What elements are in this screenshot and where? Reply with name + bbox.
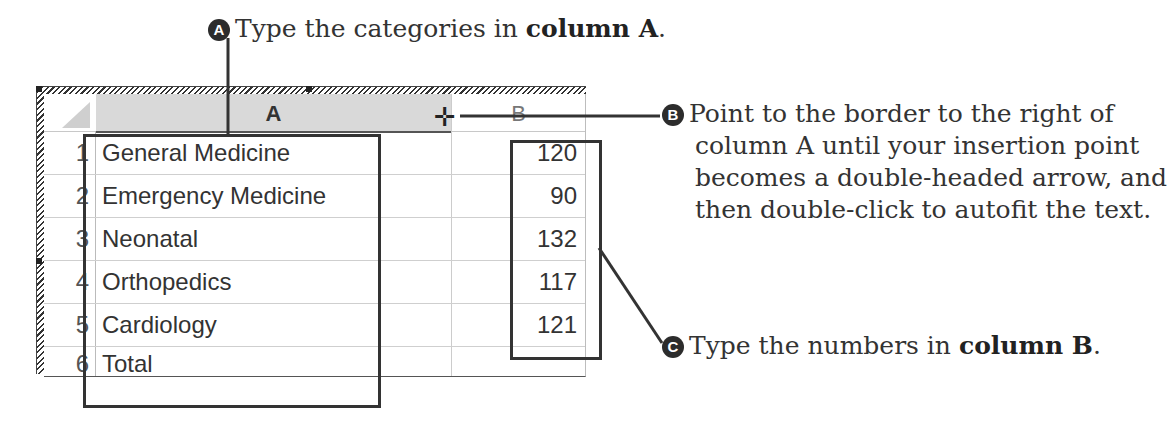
handle-top-left [36,86,42,92]
badge-c: C [662,336,684,358]
callout-a-bold: column A [526,14,658,43]
callout-b-text-1: Point to the border to the right of [689,99,1114,128]
callout-b-line-4: then double-click to autofit the text. [662,194,1167,226]
column-header-b[interactable]: B [452,94,585,131]
callout-b-line-3: becomes a double-headed arrow, and [662,162,1167,194]
callout-b-line-1: BPoint to the border to the right of [662,98,1167,130]
column-header-a[interactable]: A [96,94,451,133]
callout-b: BPoint to the border to the right of col… [662,98,1167,226]
highlight-box-column-b [510,140,602,360]
callout-a-text: Type the categories in [235,14,526,43]
callout-c: CType the numbers in column B. [662,330,1101,362]
badge-b: B [662,104,684,126]
callout-b-line-2: column A until your insertion point [662,130,1167,162]
callout-a-suffix: . [658,14,666,43]
callout-c-suffix: . [1093,331,1101,360]
selection-hatch-left [36,86,44,374]
highlight-box-column-a [83,134,381,408]
callout-a: AType the categories in column A. [208,13,666,45]
handle-top-mid [306,86,312,92]
badge-a: A [208,19,230,41]
select-all-triangle-icon [62,102,90,128]
callout-c-text: Type the numbers in [689,331,959,360]
column-header-row: A B [44,94,585,132]
resize-column-cursor-icon: ✛ [434,107,456,127]
callout-c-bold: column B [959,331,1093,360]
handle-left-mid [36,258,42,264]
select-all-button[interactable] [44,94,94,131]
